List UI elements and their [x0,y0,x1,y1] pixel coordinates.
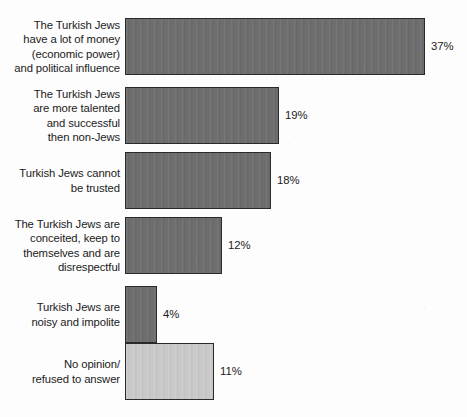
bar-category-label: The Turkish Jews are more talented and s… [0,87,120,144]
bar-category-label: The Turkish Jews have a lot of money (ec… [0,18,120,75]
bar-category-label: Turkish Jews cannot be trusted [0,166,120,194]
bar-11-percent [125,343,214,400]
bar-4-percent [125,286,157,343]
bar-row: No opinion/ refused to answer11% [0,343,467,400]
bar-row: The Turkish Jews are conceited, keep to … [0,217,467,274]
bar-value-label: 37% [431,40,454,53]
bar-row: Turkish Jews are noisy and impolite4% [0,286,467,343]
bar-category-label: Turkish Jews are noisy and impolite [0,300,120,328]
bar-18-percent [125,152,271,209]
bar-value-label: 12% [228,239,251,252]
bar-value-label: 19% [285,109,308,122]
bar-row: Turkish Jews cannot be trusted18% [0,152,467,209]
bar-value-label: 4% [163,308,179,321]
bar-19-percent [125,87,279,144]
bar-category-label: The Turkish Jews are conceited, keep to … [0,217,120,274]
bar-category-label: No opinion/ refused to answer [0,357,120,385]
bar-value-label: 11% [220,365,242,378]
horizontal-bar-chart: The Turkish Jews have a lot of money (ec… [0,0,467,417]
bar-value-label: 18% [277,174,300,187]
bar-12-percent [125,217,222,274]
bar-row: The Turkish Jews have a lot of money (ec… [0,18,467,75]
bar-37-percent [125,18,425,75]
bar-row: The Turkish Jews are more talented and s… [0,87,467,144]
